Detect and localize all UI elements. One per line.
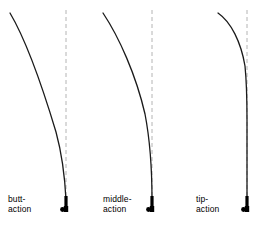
butt-action-handle	[60, 196, 68, 212]
tip-action-label: tip- action	[196, 194, 219, 214]
middle-action-label: middle- action	[103, 194, 132, 214]
middle-action-handle	[146, 196, 154, 212]
rod-action-diagram: butt- action middle- action tip- action	[0, 0, 266, 226]
reel-knob-icon	[241, 207, 246, 212]
middle-action-label-line2: action	[103, 204, 132, 214]
middle-action-rod-curve	[103, 13, 152, 200]
tip-action-label-line2: action	[196, 204, 219, 214]
reference-line-group	[66, 10, 247, 205]
rod-handle-group	[60, 196, 249, 212]
reel-knob-icon	[60, 207, 65, 212]
rod-blank-group	[10, 13, 247, 200]
tip-action-rod-curve	[218, 13, 247, 200]
middle-action-label-line1: middle-	[103, 194, 132, 204]
tip-action-label-line1: tip-	[196, 194, 219, 204]
tip-action-handle	[241, 196, 249, 212]
reel-knob-icon	[146, 207, 151, 212]
butt-action-label-line2: action	[8, 204, 31, 214]
diagram-canvas	[0, 0, 266, 226]
butt-action-label-line1: butt-	[8, 194, 31, 204]
butt-action-label: butt- action	[8, 194, 31, 214]
butt-action-rod-curve	[10, 13, 66, 200]
